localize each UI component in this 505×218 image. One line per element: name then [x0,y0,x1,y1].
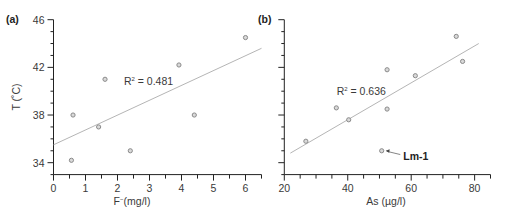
trendline [54,48,262,145]
data-point [334,106,338,110]
panel-a-points [69,35,247,162]
panel-a-y-axis-title: T (˚C) [10,83,22,110]
y-tick-label: 38 [33,109,45,121]
data-point [69,158,73,162]
data-point [413,74,417,78]
y-tick-label: 42 [33,61,45,73]
x-tick-label: 1 [83,182,89,194]
data-point [380,149,384,153]
data-point [385,68,389,72]
panel-b-label: (b) [258,13,271,25]
x-tick-label: 0 [51,182,57,194]
data-point [454,34,458,38]
data-point [304,139,308,143]
panel-a-label: (a) [6,13,19,25]
panel-b-trendline-group [290,44,478,154]
panel-a-x-axis-title: F−(mg/l) [114,195,151,207]
x-tick-label: 4 [179,182,185,194]
panel-a-axes: 343842460123456 [33,14,262,194]
figure: (a) 343842460123456 R2 = 0.481 T (˚C) F−… [0,0,505,218]
panel-b-x-axis-title: As (µg/l) [366,195,405,207]
x-tick-label: 2 [115,182,121,194]
x-tick-label: 20 [278,182,290,194]
panel-b-axes: 20406080 [278,20,490,194]
panel-a-r-squared: R2 = 0.481 [124,75,173,87]
data-point [71,113,75,117]
trendline [290,44,478,154]
data-point [103,77,107,81]
data-point [177,63,181,67]
x-tick-label: 6 [243,182,249,194]
x-tick-label: 80 [469,182,481,194]
data-point [460,59,464,63]
panel-b: (b) 20406080 R2 = 0.636 Lm-1 As (µg/l) [258,13,491,207]
data-point [385,107,389,111]
panel-b-r-squared: R2 = 0.636 [337,85,386,97]
callout-arrowhead [386,149,390,153]
data-point [128,149,132,153]
y-tick-label: 34 [33,157,45,169]
callout-label-lm-1: Lm-1 [403,150,428,162]
x-tick-label: 40 [342,182,354,194]
data-point [97,125,101,129]
x-tick-label: 60 [405,182,417,194]
data-point [192,113,196,117]
panel-a: (a) 343842460123456 R2 = 0.481 T (˚C) F−… [6,13,262,207]
data-point [347,118,351,122]
x-tick-label: 3 [147,182,153,194]
panel-a-trendline-group [54,48,262,145]
x-tick-label: 5 [211,182,217,194]
data-point [243,35,247,39]
y-tick-label: 46 [33,14,45,26]
panel-b-callout [386,149,401,154]
